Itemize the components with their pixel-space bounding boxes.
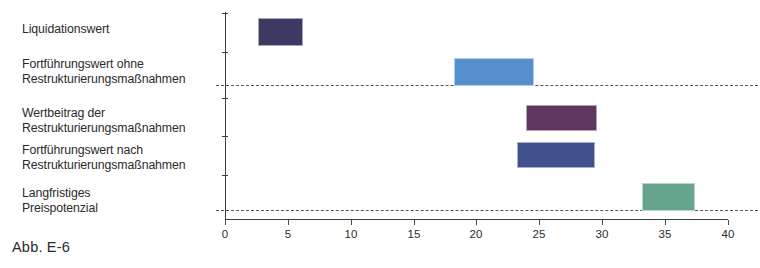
x-axis-tick	[728, 220, 729, 225]
figure-caption: Abb. E-6	[12, 239, 70, 255]
category-label-liquidationswert: Liquidationswert	[22, 22, 207, 37]
x-axis-tick-label-10: 10	[336, 228, 366, 240]
x-axis-line	[225, 219, 728, 220]
x-axis-tick	[602, 220, 603, 225]
y-axis-tick	[222, 98, 228, 99]
category-label-langfristiges-preispotenzial: Langfristiges Preispotenzial	[22, 186, 207, 215]
x-axis-tick	[539, 220, 540, 225]
x-axis-tick-label-0: 0	[210, 228, 240, 240]
x-axis-tick	[665, 220, 666, 225]
category-label-fortfuehrungswert-ohne: Fortführungswert ohne Restrukturierungsm…	[22, 57, 207, 86]
x-axis-tick	[414, 220, 415, 225]
y-axis-tick	[222, 52, 228, 53]
x-axis-tick-label-20: 20	[461, 228, 491, 240]
bar-wertbeitrag	[526, 105, 597, 131]
x-axis-tick-label-15: 15	[399, 228, 429, 240]
y-axis-line	[225, 12, 226, 220]
x-axis-tick-label-40: 40	[713, 228, 743, 240]
category-label-fortfuehrungswert-nach: Fortführungswert nach Restrukturierungsm…	[22, 143, 207, 172]
y-axis-tick	[222, 136, 228, 137]
bar-langfristiges-preispotenzial	[642, 183, 695, 211]
x-axis-tick-label-25: 25	[524, 228, 554, 240]
x-axis-tick-label-30: 30	[587, 228, 617, 240]
figure-container: Liquidationswert Fortführungswert ohne R…	[0, 0, 760, 268]
x-axis-tick	[351, 220, 352, 225]
reference-line-lower	[216, 210, 758, 211]
x-axis-tick-label-5: 5	[273, 228, 303, 240]
x-axis-tick-label-35: 35	[650, 228, 680, 240]
y-axis-tick	[222, 175, 228, 176]
x-axis-tick	[288, 220, 289, 225]
x-axis-tick	[476, 220, 477, 225]
bar-liquidationswert	[258, 18, 303, 46]
bar-fortfuehrungswert-nach	[517, 142, 595, 168]
reference-line-upper	[216, 85, 758, 86]
category-label-wertbeitrag: Wertbeitrag der Restrukturierungsmaßnahm…	[22, 106, 207, 135]
x-axis-tick	[225, 220, 226, 225]
y-axis-tick	[222, 13, 228, 14]
bar-fortfuehrungswert-ohne	[454, 58, 534, 86]
